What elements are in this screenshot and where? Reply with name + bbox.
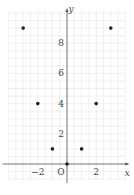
y-tick-label: 6 [58,68,64,78]
y-tick-label: 2 [58,129,64,139]
x-tick-label: −2 [31,167,44,177]
y-axis-label: y [67,4,74,14]
data-point [21,26,25,30]
data-point [94,102,98,106]
y-tick-label: 4 [58,99,64,109]
data-point [109,26,113,30]
x-axis-arrow-icon [125,162,129,165]
data-point [65,162,69,166]
data-point [51,147,55,151]
x-tick-label: 2 [93,167,99,177]
data-point [80,147,84,151]
scatter-plot: −222468Oxy [0,0,134,195]
tick-labels: −222468Oxy [31,4,130,178]
x-axis-label: x [125,168,130,178]
y-tick-label: 8 [58,38,64,48]
origin-label: O [57,167,64,177]
data-point [36,102,40,106]
axes [3,8,130,183]
